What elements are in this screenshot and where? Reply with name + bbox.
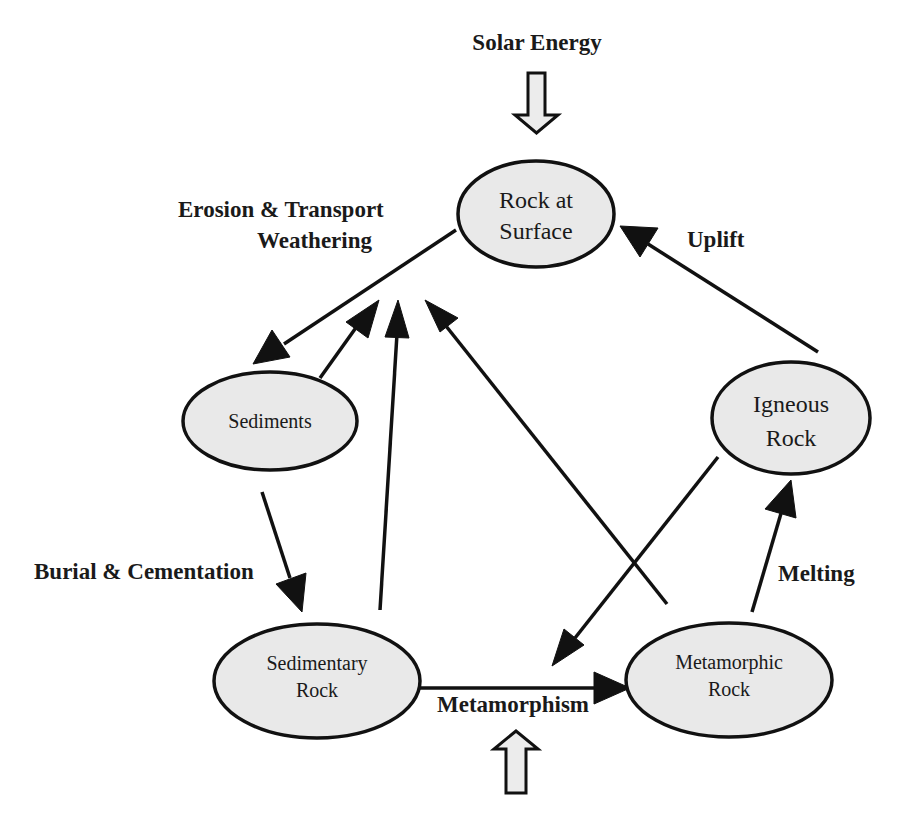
uplift-label: Uplift — [687, 227, 745, 252]
rock-cycle-diagram: Solar Energy — [0, 0, 905, 823]
edge-melting — [752, 480, 796, 612]
node-rock-at-surface: Rock at Surface — [458, 161, 614, 267]
node-label: Rock — [766, 425, 817, 451]
node-label: Rock at — [499, 187, 573, 213]
node-label: Sediments — [228, 410, 312, 432]
edge-burial-cementation — [262, 492, 306, 612]
edge-metamorphic-to-weathering — [425, 300, 667, 604]
melting-label: Melting — [778, 561, 855, 586]
node-label: Igneous — [753, 391, 829, 417]
node-label: Rock — [708, 678, 750, 700]
solar-energy-arrow-icon — [515, 73, 558, 133]
solar-energy-label: Solar Energy — [472, 30, 602, 55]
weathering-label: Weathering — [257, 228, 372, 253]
node-metamorphic-rock: Metamorphic Rock — [626, 623, 832, 737]
arrowhead-icon — [425, 300, 458, 332]
bottom-energy-arrow-icon — [494, 731, 538, 793]
node-label: Surface — [499, 218, 572, 244]
arrowhead-icon — [385, 300, 409, 338]
edge-sediments-to-weathering — [320, 300, 379, 378]
node-sedimentary-rock: Sedimentary Rock — [214, 624, 420, 738]
arrowhead-icon — [765, 480, 796, 518]
edge-sedimentary-to-weathering — [380, 300, 409, 610]
metamorphism-label: Metamorphism — [437, 692, 589, 717]
node-label: Sedimentary — [266, 652, 367, 675]
arrowhead-icon — [253, 330, 290, 364]
erosion-transport-label: Erosion & Transport — [178, 197, 384, 222]
node-igneous-rock: Igneous Rock — [712, 362, 870, 474]
node-label: Rock — [296, 679, 338, 701]
node-label: Metamorphic — [675, 651, 783, 674]
node-sediments: Sediments — [183, 372, 357, 470]
arrowhead-icon — [620, 226, 658, 257]
burial-cementation-label: Burial & Cementation — [34, 559, 254, 584]
arrowhead-icon — [276, 573, 306, 612]
